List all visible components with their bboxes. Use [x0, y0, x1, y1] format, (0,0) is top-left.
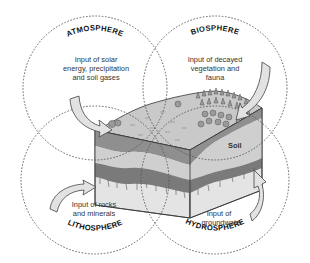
lithosphere-caption: Input of rocks and minerals: [72, 200, 117, 218]
biosphere-caption: Input of decayed vegetation and fauna: [188, 55, 243, 82]
biosphere-title: BIOSPHERE: [189, 23, 240, 36]
svg-text:and minerals: and minerals: [73, 209, 116, 218]
svg-text:Input of: Input of: [207, 209, 233, 218]
atmosphere-caption: Input of solar energy, precipitation and…: [63, 55, 129, 82]
svg-text:Input of decayed: Input of decayed: [188, 55, 243, 64]
four-spheres-diagram: Soil ATMOSPHERE BIOSPHERE LITHOSPHERE HY…: [0, 0, 310, 263]
svg-text:Input of solar: Input of solar: [75, 55, 118, 64]
atmosphere-input-arrow: [70, 96, 112, 137]
svg-text:groundwater: groundwater: [201, 218, 243, 227]
atmosphere-title: ATMOSPHERE: [65, 23, 125, 38]
hydrosphere-caption: Input of groundwater: [201, 209, 243, 227]
soil-block: Soil: [95, 88, 262, 218]
lithosphere-title: LITHOSPHERE: [66, 218, 123, 233]
soil-label: Soil: [228, 141, 242, 150]
svg-text:vegetation and: vegetation and: [191, 64, 240, 73]
svg-text:fauna: fauna: [206, 73, 225, 82]
svg-text:energy, precipitation: energy, precipitation: [63, 64, 129, 73]
svg-text:Input of rocks: Input of rocks: [72, 200, 117, 209]
svg-text:and soil gases: and soil gases: [72, 73, 120, 82]
